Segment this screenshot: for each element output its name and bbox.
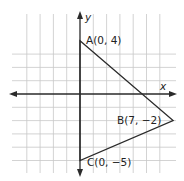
point-label-b: B(7, −2) <box>117 114 161 126</box>
x-axis-label: x <box>159 80 167 92</box>
x-axis-right-arrow-icon <box>169 91 177 97</box>
x-axis-left-arrow-icon <box>9 91 17 97</box>
y-axis-up-arrow-icon <box>77 11 83 19</box>
triangle-abc <box>80 41 173 161</box>
coordinate-plane: x y A(0, 4) B(7, −2) C(0, −5) <box>0 0 184 181</box>
y-axis-down-arrow-icon <box>77 169 83 177</box>
y-axis-label: y <box>84 11 92 23</box>
point-label-c: C(0, −5) <box>87 156 131 168</box>
point-label-a: A(0, 4) <box>86 34 121 46</box>
